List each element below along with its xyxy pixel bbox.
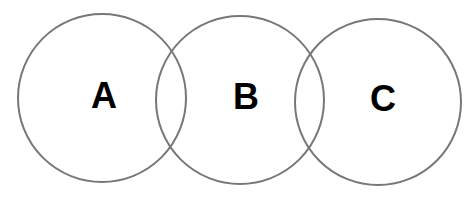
label-b: B [233,76,259,117]
circle-c-group: C [295,19,461,185]
venn-diagram: A B C [0,0,475,200]
label-c: C [370,78,396,119]
circle-b-group: B [156,16,324,184]
circle-a-group: A [18,14,186,182]
label-a: A [91,75,117,116]
